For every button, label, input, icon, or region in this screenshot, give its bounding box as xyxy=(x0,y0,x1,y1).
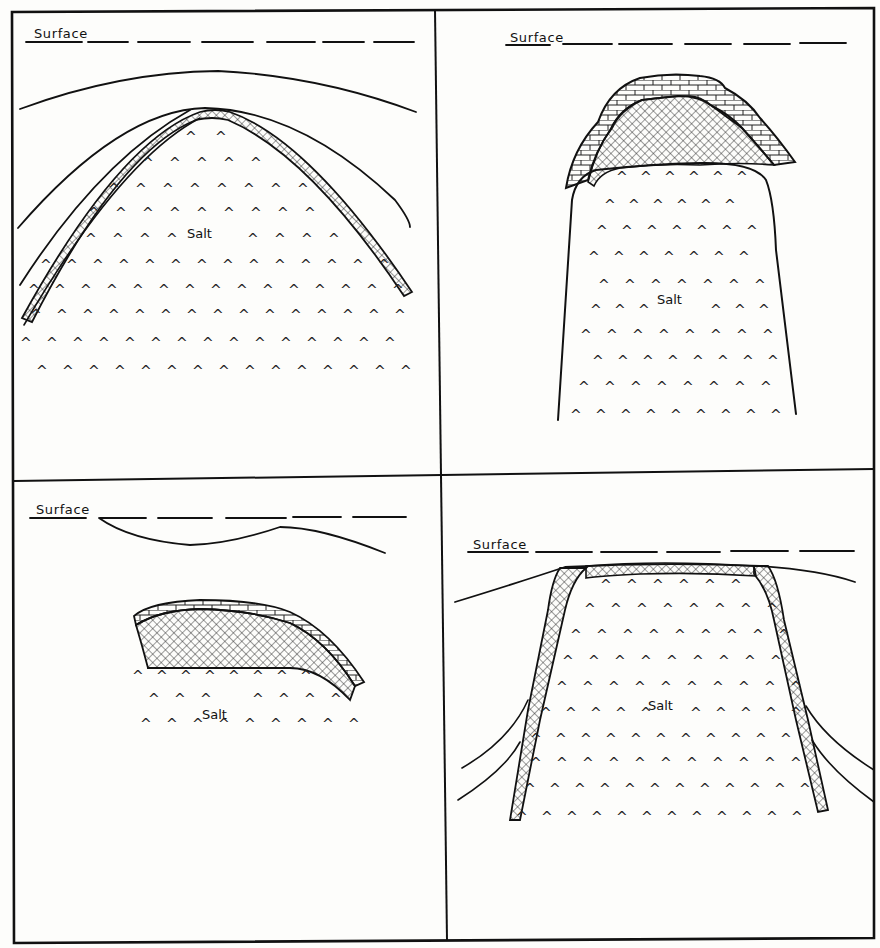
svg-text:^: ^ xyxy=(741,809,753,825)
svg-text:^: ^ xyxy=(132,282,144,298)
svg-text:^: ^ xyxy=(710,302,722,318)
svg-text:^: ^ xyxy=(616,169,628,185)
svg-text:^: ^ xyxy=(306,335,318,351)
svg-text:^: ^ xyxy=(613,249,625,265)
svg-text:^: ^ xyxy=(764,755,776,771)
svg-text:^: ^ xyxy=(605,731,617,747)
svg-text:^: ^ xyxy=(574,781,586,797)
svg-text:^: ^ xyxy=(714,601,726,617)
svg-text:^: ^ xyxy=(688,169,700,185)
svg-text:^: ^ xyxy=(72,335,84,351)
svg-text:^: ^ xyxy=(40,257,52,273)
svg-text:^: ^ xyxy=(588,653,600,669)
svg-text:^: ^ xyxy=(691,809,703,825)
svg-text:^: ^ xyxy=(730,577,742,593)
svg-text:^: ^ xyxy=(218,716,230,732)
svg-text:^: ^ xyxy=(196,205,208,221)
svg-text:^: ^ xyxy=(738,679,750,695)
svg-text:^: ^ xyxy=(634,755,646,771)
svg-text:^: ^ xyxy=(610,601,622,617)
svg-text:^: ^ xyxy=(368,307,380,323)
svg-text:^: ^ xyxy=(745,407,757,423)
svg-text:^: ^ xyxy=(169,155,181,171)
svg-text:^: ^ xyxy=(674,627,686,643)
svg-text:^: ^ xyxy=(736,169,748,185)
svg-text:^: ^ xyxy=(734,302,746,318)
svg-text:^: ^ xyxy=(166,231,178,247)
svg-text:^: ^ xyxy=(236,282,248,298)
svg-text:^: ^ xyxy=(790,679,802,695)
svg-text:^: ^ xyxy=(28,282,40,298)
svg-text:^: ^ xyxy=(549,781,561,797)
surface-line xyxy=(468,551,854,552)
svg-text:^: ^ xyxy=(664,169,676,185)
svg-text:^: ^ xyxy=(614,653,626,669)
svg-text:^: ^ xyxy=(749,781,761,797)
svg-text:^: ^ xyxy=(634,679,646,695)
svg-text:^: ^ xyxy=(264,307,276,323)
svg-text:^: ^ xyxy=(630,731,642,747)
svg-text:^: ^ xyxy=(688,249,700,265)
svg-text:^: ^ xyxy=(300,257,312,273)
svg-text:^: ^ xyxy=(767,353,779,369)
svg-text:^: ^ xyxy=(115,205,127,221)
svg-text:^: ^ xyxy=(755,731,767,747)
svg-text:^: ^ xyxy=(699,781,711,797)
svg-text:^: ^ xyxy=(598,277,610,293)
svg-text:^: ^ xyxy=(736,327,748,343)
svg-text:^: ^ xyxy=(82,307,94,323)
svg-text:^: ^ xyxy=(215,129,227,145)
svg-text:^: ^ xyxy=(700,197,712,213)
svg-text:^: ^ xyxy=(652,577,664,593)
svg-text:^: ^ xyxy=(624,781,636,797)
svg-text:^: ^ xyxy=(596,223,608,239)
svg-text:^: ^ xyxy=(606,327,618,343)
svg-text:^: ^ xyxy=(632,327,644,343)
svg-text:^: ^ xyxy=(766,809,778,825)
salt-label: Salt xyxy=(648,698,673,713)
svg-text:^: ^ xyxy=(140,716,152,732)
svg-text:^: ^ xyxy=(144,257,156,273)
svg-text:^: ^ xyxy=(712,755,724,771)
svg-text:^: ^ xyxy=(358,335,370,351)
svg-text:^: ^ xyxy=(530,731,542,747)
svg-text:^: ^ xyxy=(710,327,722,343)
svg-text:^: ^ xyxy=(314,282,326,298)
svg-text:^: ^ xyxy=(374,363,386,379)
svg-text:^: ^ xyxy=(300,668,312,684)
svg-text:^: ^ xyxy=(340,282,352,298)
svg-text:^: ^ xyxy=(738,249,750,265)
svg-text:^: ^ xyxy=(570,627,582,643)
svg-text:^: ^ xyxy=(592,353,604,369)
svg-text:^: ^ xyxy=(676,197,688,213)
svg-text:^: ^ xyxy=(678,577,690,593)
svg-text:^: ^ xyxy=(348,363,360,379)
svg-text:^: ^ xyxy=(148,691,160,707)
svg-text:^: ^ xyxy=(280,335,292,351)
svg-text:^: ^ xyxy=(218,363,230,379)
svg-text:^: ^ xyxy=(66,257,78,273)
svg-text:^: ^ xyxy=(250,155,262,171)
svg-text:^: ^ xyxy=(692,353,704,369)
svg-text:^: ^ xyxy=(778,627,790,643)
svg-text:^: ^ xyxy=(244,363,256,379)
svg-text:^: ^ xyxy=(692,653,704,669)
svg-text:^: ^ xyxy=(166,716,178,732)
svg-text:^: ^ xyxy=(54,282,66,298)
svg-text:^: ^ xyxy=(590,302,602,318)
svg-text:^: ^ xyxy=(56,307,68,323)
svg-text:^: ^ xyxy=(210,282,222,298)
svg-text:^: ^ xyxy=(744,653,756,669)
panel-top-left: Surface Salt ^^^^^^^^^^^^^^^^^^^^^^^^^^^… xyxy=(18,26,416,379)
svg-text:^: ^ xyxy=(658,327,670,343)
svg-text:^: ^ xyxy=(591,809,603,825)
svg-text:^: ^ xyxy=(621,223,633,239)
svg-text:^: ^ xyxy=(348,716,360,732)
svg-text:^: ^ xyxy=(184,282,196,298)
svg-text:^: ^ xyxy=(636,601,648,617)
svg-text:^: ^ xyxy=(296,716,308,732)
svg-text:^: ^ xyxy=(595,407,607,423)
svg-text:^: ^ xyxy=(85,231,97,247)
svg-text:^: ^ xyxy=(791,809,803,825)
svg-text:^: ^ xyxy=(708,379,720,395)
